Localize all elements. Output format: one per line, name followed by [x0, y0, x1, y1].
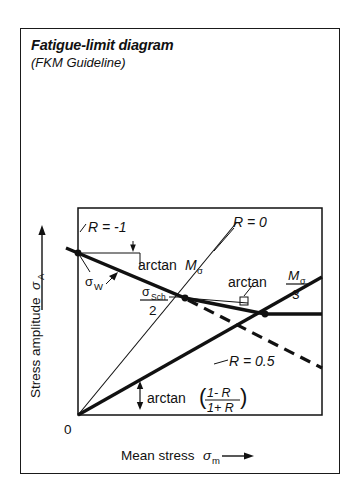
- diagram-card: Fatigue-limit diagram (FKM Guideline): [20, 28, 340, 474]
- title-block: Fatigue-limit diagram (FKM Guideline): [31, 37, 173, 71]
- page-subtitle: (FKM Guideline): [31, 55, 173, 71]
- page-title: Fatigue-limit diagram: [31, 37, 173, 55]
